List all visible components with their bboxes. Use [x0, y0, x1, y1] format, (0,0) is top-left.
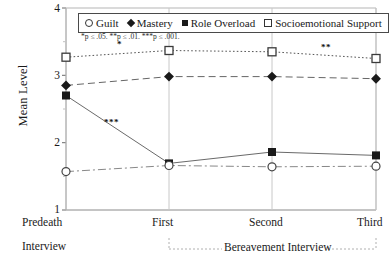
- data-point-marker: [268, 48, 276, 56]
- x-tick-label-third: Third: [357, 216, 383, 228]
- data-point-marker: [165, 162, 173, 170]
- data-point-marker: [372, 55, 380, 63]
- significance-annotation-role-overload: ***: [104, 117, 119, 127]
- data-point-marker: [62, 168, 70, 176]
- y-tick-label-1: 1: [38, 203, 60, 215]
- chart-legend: Guilt Mastery Role Overload Socioemotion…: [78, 13, 389, 33]
- x-tick-label-second: Second: [249, 216, 283, 228]
- series-guilt: [62, 162, 380, 176]
- legend-item-mastery: Mastery: [128, 15, 173, 30]
- y-tick-label-4: 4: [38, 2, 60, 14]
- x-tick-sublabel-predeath-interview: Interview: [22, 240, 66, 252]
- series-line-mastery: [66, 77, 376, 86]
- legend-item-guilt: Guilt: [85, 15, 119, 30]
- legend-label-role-overload: Role Overload: [191, 16, 255, 30]
- data-point-marker: [164, 72, 174, 82]
- y-axis-title: Mean Level: [16, 51, 31, 141]
- data-point-marker: [62, 53, 70, 61]
- significance-annotation-socioemotional-2: **: [321, 42, 331, 52]
- series-line-guilt: [66, 166, 376, 172]
- data-point-marker: [372, 151, 380, 159]
- legend-item-socioemotional-support: Socioemotional Support: [264, 15, 382, 30]
- data-point-marker: [372, 162, 380, 170]
- legend-label-guilt: Guilt: [96, 16, 119, 30]
- series-socioemotional-support: [62, 47, 380, 63]
- series-mastery: [61, 72, 381, 91]
- y-tick-label-3: 3: [38, 69, 60, 81]
- chart-figure: Mean Level 4 3 2 1 Predeath First Second…: [0, 0, 391, 263]
- y-tick-label-2: 2: [38, 136, 60, 148]
- data-point-marker: [268, 148, 276, 156]
- filled-square-marker-icon: [182, 20, 188, 26]
- significance-footnote: *p ≤ .05. **p ≤ .01. ***p ≤ .001.: [81, 32, 180, 41]
- series-line-role-overload: [66, 96, 376, 164]
- data-point-marker: [61, 80, 71, 90]
- bereavement-bracket-label: Bereavement Interview: [224, 241, 332, 253]
- legend-label-socioemotional-support: Socioemotional Support: [275, 16, 382, 30]
- legend-label-mastery: Mastery: [137, 16, 173, 30]
- data-point-marker: [267, 72, 277, 82]
- series-role-overload: [62, 92, 380, 168]
- legend-item-role-overload: Role Overload: [182, 15, 255, 30]
- data-point-marker: [371, 74, 381, 84]
- filled-diamond-marker-icon: [126, 19, 134, 27]
- significance-annotation-socioemotional-1: *: [117, 39, 122, 49]
- x-tick-label-predeath: Predeath: [22, 216, 62, 228]
- open-circle-marker-icon: [85, 19, 93, 27]
- data-point-marker: [62, 92, 70, 100]
- open-square-marker-icon: [264, 19, 272, 27]
- data-point-marker: [268, 163, 276, 171]
- x-tick-label-first: First: [152, 216, 173, 228]
- data-point-marker: [165, 47, 173, 55]
